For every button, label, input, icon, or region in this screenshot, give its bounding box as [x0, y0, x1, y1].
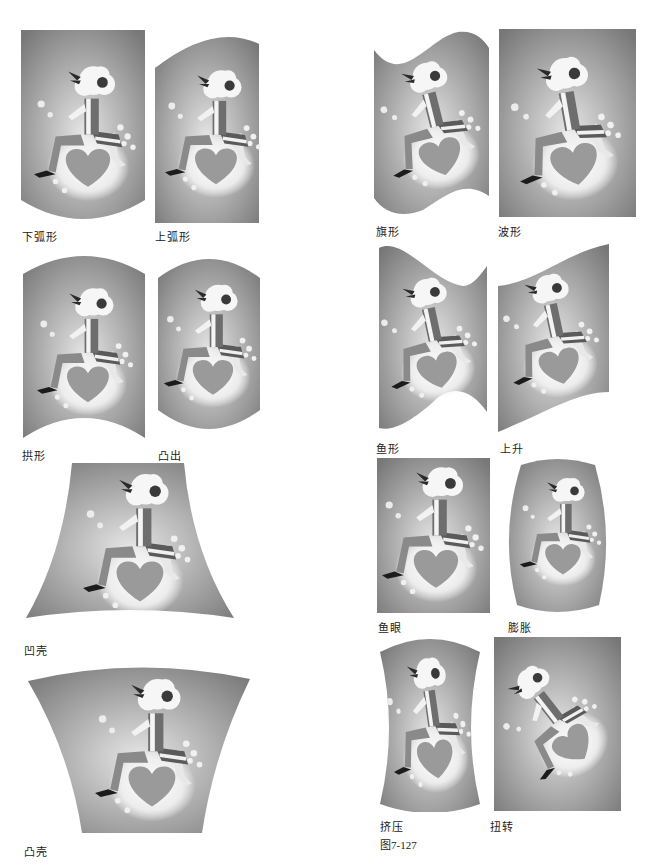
label-fisheye: 鱼眼	[378, 619, 402, 635]
rise-image	[497, 242, 610, 432]
panel-shell-upper	[24, 663, 252, 835]
label-flag: 旗形	[376, 223, 400, 239]
arc-upper-image	[154, 28, 260, 224]
arc-lower-image	[20, 28, 147, 224]
flag-image	[373, 28, 490, 218]
twist-image	[493, 636, 622, 812]
label-bulge: 凸出	[158, 447, 182, 463]
fish-image	[373, 242, 488, 432]
label-inflate: 膨胀	[508, 619, 532, 635]
wave-image	[498, 28, 637, 218]
arch-image	[22, 248, 146, 440]
label-shell-upper: 凸壳	[24, 843, 48, 859]
shell-lower-image	[24, 462, 236, 628]
panel-twist	[493, 636, 622, 812]
label-arch: 拱形	[22, 447, 46, 463]
label-fish: 鱼形	[376, 440, 400, 456]
label-wave: 波形	[498, 223, 522, 239]
figure-caption: 图7-127	[380, 836, 417, 852]
shell-upper-image	[24, 663, 252, 835]
squeeze-image	[378, 636, 482, 812]
panel-inflate	[503, 457, 612, 614]
panel-bulge	[157, 248, 261, 440]
panel-arc-lower	[20, 28, 147, 224]
label-shell-lower: 凹壳	[24, 642, 48, 658]
label-rise: 上升	[500, 440, 524, 456]
bulge-image	[157, 248, 261, 440]
label-arc-lower: 下弧形	[22, 228, 58, 244]
panel-flag	[373, 28, 490, 218]
label-squeeze: 挤压	[380, 818, 404, 834]
panel-arch	[22, 248, 146, 440]
panel-shell-lower	[24, 462, 236, 628]
panel-wave	[498, 28, 637, 218]
panel-fish	[373, 242, 488, 432]
panel-squeeze	[378, 636, 482, 812]
panel-rise	[497, 242, 610, 432]
label-twist: 扭转	[490, 818, 514, 834]
fisheye-image	[376, 457, 491, 614]
label-arc-upper: 上弧形	[155, 228, 191, 244]
panel-fisheye	[376, 457, 491, 614]
inflate-image	[503, 457, 612, 614]
panel-arc-upper	[154, 28, 260, 224]
